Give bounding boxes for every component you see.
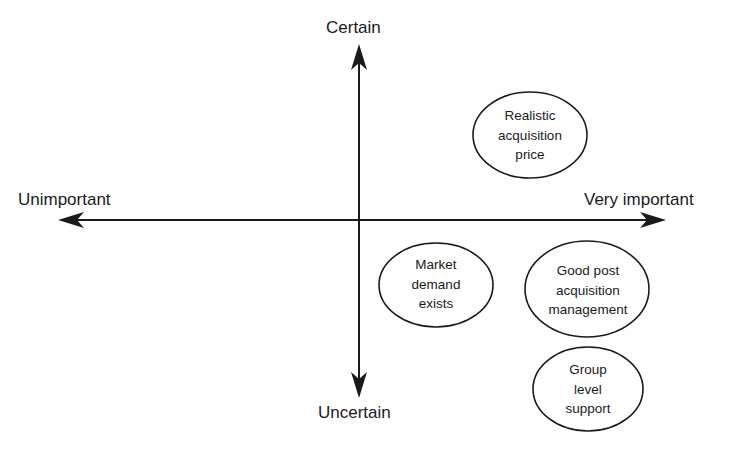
node-label-line: exists: [412, 294, 461, 314]
node-label-line: level: [565, 379, 610, 399]
horizontal-axis: [58, 212, 666, 228]
node-label-line: Group: [565, 360, 610, 380]
node-market-demand-exists: Market demand exists: [412, 255, 461, 314]
axis-label-very-important: Very important: [584, 190, 694, 210]
node-realistic-acquisition-price: Realistic acquisition price: [498, 106, 562, 165]
node-label-line: acquisition: [498, 125, 562, 145]
node-label-line: price: [498, 145, 562, 165]
axis-label-uncertain: Uncertain: [318, 403, 391, 423]
node-label-line: Market: [412, 255, 461, 275]
axis-label-unimportant: Unimportant: [18, 190, 111, 210]
node-label-line: Good post: [549, 261, 628, 281]
node-label-line: demand: [412, 274, 461, 294]
assumption-mapping-diagram: Certain Uncertain Unimportant Very impor…: [0, 0, 738, 456]
diagram-canvas: [0, 0, 738, 456]
node-label-line: management: [549, 300, 628, 320]
node-label-line: Realistic: [498, 106, 562, 126]
node-group-level-support: Group level support: [565, 360, 610, 419]
axis-label-certain: Certain: [326, 18, 381, 38]
node-label-line: support: [565, 399, 610, 419]
node-good-post-acquisition-management: Good post acquisition management: [549, 261, 628, 320]
node-label-line: acquisition: [549, 280, 628, 300]
